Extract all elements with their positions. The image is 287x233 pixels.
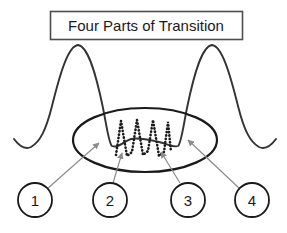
transition-diagram: Four Parts of Transition 1 2 — [0, 0, 287, 233]
callout-4[interactable]: 4 — [235, 183, 269, 217]
callout-label-2: 2 — [106, 192, 114, 209]
callout-1[interactable]: 1 — [18, 183, 52, 217]
leader-line-3 — [161, 152, 180, 183]
callout-label-1: 1 — [31, 192, 39, 209]
callout-label-3: 3 — [184, 192, 192, 209]
title-box: Four Parts of Transition — [51, 12, 243, 40]
transition-curve-path — [14, 45, 276, 148]
page-title: Four Parts of Transition — [68, 17, 224, 34]
leader-line-1 — [47, 143, 99, 189]
callout-3[interactable]: 3 — [171, 183, 205, 217]
diagram-canvas: Four Parts of Transition 1 2 — [0, 0, 287, 233]
callout-label-4: 4 — [248, 192, 256, 209]
bimodal-curve — [14, 45, 276, 148]
callout-2[interactable]: 2 — [93, 183, 127, 217]
